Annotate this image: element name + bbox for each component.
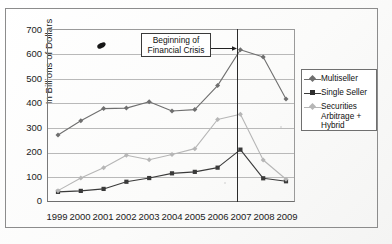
annotation-beginning-of-financial-crisis: Beginning of Financial Crisis <box>141 33 211 57</box>
data-point <box>124 106 129 111</box>
data-point <box>147 176 151 180</box>
x-tick-label-2009: 2009 <box>272 212 302 222</box>
data-point <box>78 176 83 181</box>
data-point <box>101 165 106 170</box>
data-point <box>79 189 83 193</box>
data-point <box>101 106 106 111</box>
y-tick-label-400: 400 <box>8 98 42 108</box>
legend-label-line-2: Arbitrage + <box>321 112 361 121</box>
data-point <box>124 153 129 158</box>
data-point <box>147 157 152 162</box>
data-point <box>102 187 106 191</box>
financial-crisis-marker-line <box>237 29 238 202</box>
legend-label-multiseller: Multiseller <box>321 74 358 84</box>
data-point <box>170 152 175 157</box>
data-point <box>216 166 220 170</box>
legend-label-single-seller: Single Seller <box>321 88 367 98</box>
legend-item-multiseller: Multiseller <box>304 74 374 84</box>
data-point <box>170 109 175 114</box>
legend-label-line-1: Securities <box>321 102 357 111</box>
y-tick-label-600: 600 <box>8 49 42 59</box>
data-point <box>261 176 265 180</box>
chart-figure: In Billions of Dollars 700 600 500 400 3… <box>0 0 392 244</box>
data-point <box>147 99 152 104</box>
y-tick-label-500: 500 <box>8 74 42 84</box>
y-tick-label-300: 300 <box>8 123 42 133</box>
data-point <box>238 112 243 117</box>
legend-label-securities-arbitrage-hybrid: Securities Arbitrage + Hybrid <box>321 102 361 131</box>
legend-item-securities-arbitrage-hybrid: Securities Arbitrage + Hybrid <box>304 102 374 131</box>
legend-label-line-3: Hybrid <box>321 121 345 130</box>
legend-item-single-seller: Single Seller <box>304 88 374 98</box>
y-tick-label-700: 700 <box>8 25 42 35</box>
legend-marker-square-icon <box>304 89 321 98</box>
annotation-arrow-icon <box>211 44 237 53</box>
annotation-line-2: Financial Crisis <box>148 45 205 55</box>
data-point <box>193 170 197 174</box>
y-tick-label-100: 100 <box>8 172 42 182</box>
legend-marker-diamond-icon <box>304 75 321 84</box>
chart-legend: Multiseller Single Seller Securities Arb… <box>301 69 377 131</box>
x-axis-tick-labels: 1999 2000 2001 2002 2003 2004 2005 2006 … <box>47 212 295 224</box>
legend-marker-diamond-light-icon <box>304 103 321 112</box>
data-point <box>124 180 128 184</box>
data-point <box>238 148 242 152</box>
y-tick-label-0: 0 <box>8 196 42 206</box>
series-line-multiseller <box>58 50 286 135</box>
annotation-line-1: Beginning of <box>153 35 200 45</box>
data-point <box>284 96 289 101</box>
data-point <box>261 54 266 59</box>
y-tick-label-200: 200 <box>8 147 42 157</box>
data-point <box>170 171 174 175</box>
